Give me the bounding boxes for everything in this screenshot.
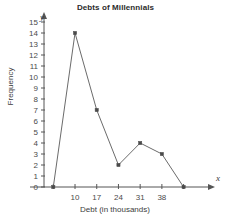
y-tick-label: 5	[34, 128, 39, 137]
y-tick-label: 11	[30, 62, 39, 71]
y-tick-label: 12	[29, 51, 38, 60]
x-tick-label: 31	[136, 193, 145, 202]
data-point-marker	[160, 152, 163, 155]
y-tick-label: 15	[29, 18, 38, 27]
data-point-marker	[95, 108, 98, 111]
y-tick-label: 10	[29, 73, 38, 82]
y-tick-label: 1	[34, 172, 39, 181]
axes-group	[30, 12, 215, 190]
data-point-marker	[73, 31, 76, 34]
y-tick-label: 6	[34, 117, 39, 126]
y-tick-label: 7	[34, 106, 39, 115]
y-tick-label: 2	[34, 161, 39, 170]
y-tick-label: 8	[34, 95, 39, 104]
y-tick-label: 4	[34, 139, 39, 148]
data-point-marker	[139, 141, 142, 144]
x-tick-label: 17	[92, 193, 101, 202]
x-tick-label: 10	[71, 193, 80, 202]
y-tick-label: 9	[34, 84, 39, 93]
x-tick-label: 38	[157, 193, 166, 202]
y-tick-label: 13	[29, 40, 38, 49]
x-axis-name-label: x	[215, 173, 220, 183]
chart-plot-area: 0123456789101112131415 1017243138 y x	[0, 0, 231, 221]
y-axis-name-label: y	[39, 12, 44, 22]
chart-container: Debts of Millennials 0123456789101112131…	[0, 0, 231, 221]
data-point-marker	[182, 185, 185, 188]
y-tick-group: 0123456789101112131415	[29, 18, 45, 192]
x-tick-label: 24	[114, 193, 123, 202]
x-axis-title: Debt (in thousands)	[20, 205, 210, 214]
data-point-marker	[52, 185, 55, 188]
y-tick-label: 14	[29, 29, 38, 38]
y-tick-label: 3	[34, 150, 39, 159]
y-axis-title: Frequency	[6, 52, 15, 122]
data-point-marker	[117, 163, 120, 166]
y-tick-label: 0	[34, 183, 39, 192]
